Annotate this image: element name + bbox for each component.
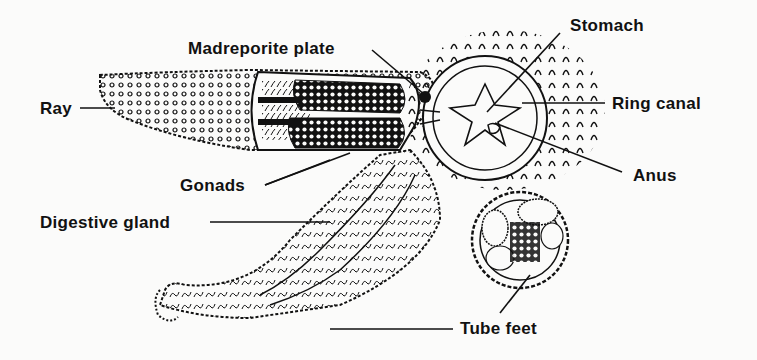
label-tube-feet: Tube feet: [460, 320, 537, 337]
ray-upper-left: [100, 70, 433, 150]
starfish-anatomy-diagram: Madreporite plate Stomach Ray Ring canal…: [0, 0, 757, 360]
ray-cross-section: [472, 192, 568, 288]
label-madreporite-plate: Madreporite plate: [188, 40, 335, 57]
label-gonads: Gonads: [180, 177, 245, 194]
central-disc: [405, 30, 605, 190]
label-digestive-gland: Digestive gland: [40, 214, 170, 231]
label-ring-canal: Ring canal: [612, 95, 701, 112]
label-ray: Ray: [40, 100, 72, 117]
label-stomach: Stomach: [570, 17, 644, 34]
label-anus: Anus: [633, 167, 677, 184]
gonads-leader-2: [265, 153, 350, 185]
